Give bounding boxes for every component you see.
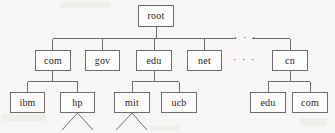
node-gov[interactable]: gov (85, 50, 120, 71)
dns-tree-figure: root com gov edu net cn ibm hp mit ucb e… (0, 0, 335, 133)
edge-mit-fan-left (116, 113, 132, 130)
node-cn-com[interactable]: com (292, 92, 328, 113)
node-ibm[interactable]: ibm (10, 92, 45, 113)
ellipsis-top-bus: · · · (234, 33, 257, 43)
node-net[interactable]: net (187, 50, 222, 71)
ellipsis-level1-row: · · · (233, 55, 256, 65)
node-hp[interactable]: hp (60, 92, 95, 113)
node-root[interactable]: root (138, 5, 174, 27)
node-mit[interactable]: mit (114, 92, 150, 113)
node-ucb[interactable]: ucb (161, 92, 197, 113)
node-com[interactable]: com (35, 50, 71, 71)
edge-hp-fan-left (62, 113, 78, 130)
edge-hp-fan-right (78, 113, 94, 130)
node-cn[interactable]: cn (272, 50, 308, 71)
node-edu[interactable]: edu (136, 50, 172, 71)
edge-mit-fan-right (132, 113, 147, 130)
node-cn-edu[interactable]: edu (250, 92, 286, 113)
